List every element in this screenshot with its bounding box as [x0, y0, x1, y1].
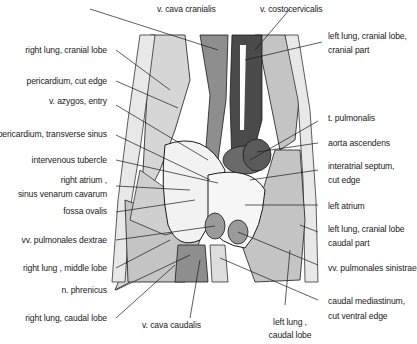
label-caudal-part: caudal part: [328, 238, 369, 249]
label-pericardium-cut-edge: pericardium, cut edge: [26, 76, 107, 87]
aorta-ascendens: [243, 139, 271, 171]
label-right-lung-middle-lobe: right lung , middle lobe: [23, 263, 107, 274]
label-right-lung-cranial-lobe: right lung, cranial lobe: [25, 45, 107, 56]
label-right-lung-caudal-lobe: right lung, caudal lobe: [25, 313, 107, 324]
label-right-atrium: right atrium ,: [61, 175, 107, 186]
label-vv-pulmonales-sinistrae: vv. pulmonales sinistrae: [328, 263, 417, 274]
label-left-lung-cranial-lobe: left lung, cranial lobe,: [328, 31, 407, 42]
label-left-lung-caudal: left lung ,: [268, 317, 312, 328]
v-cava-cranialis: [200, 35, 228, 160]
label-v-azygos-entry: v. azygos, entry: [49, 96, 107, 107]
label-left-lung-cranial-lobe-caudal: left lung, cranial lobe: [328, 224, 405, 235]
label-intervenous-tubercle: intervenous tubercle: [32, 155, 107, 166]
label-vv-pulmonales-dextrae: vv. pulmonales dextrae: [21, 235, 107, 246]
label-sinus-venarum-cavarum: sinus venarum cavarum: [18, 189, 107, 200]
label-interatrial-septum: interatrial septum,: [328, 161, 394, 172]
label-caudal-lobe: caudal lobe: [268, 330, 312, 341]
caudal-mediastinum: [210, 245, 228, 282]
v-cava-caudalis: [175, 245, 208, 282]
label-t-pulmonalis: t. pulmonalis: [328, 113, 375, 124]
label-cranial-part: cranial part: [328, 45, 369, 56]
label-v-cava-cranialis: v. cava cranialis: [157, 4, 216, 15]
label-aorta-ascendens: aorta ascendens: [328, 138, 390, 149]
label-left-atrium: left atrium: [328, 201, 365, 212]
label-n-phrenicus: n. phrenicus: [61, 285, 107, 296]
label-cut-edge: cut edge: [328, 175, 360, 186]
label-v-cava-caudalis: v. cava caudalis: [142, 320, 201, 331]
label-v-costocervicalis: v. costocervicalis: [260, 4, 323, 15]
label-fossa-ovalis: fossa ovalis: [63, 206, 107, 217]
label-cut-ventral-edge: cut ventral edge: [328, 311, 388, 322]
label-caudal-mediastinum: caudal mediastinum,: [328, 296, 405, 307]
label-pericardium-transverse-sinus: pericardium, transverse sinus: [0, 129, 107, 140]
